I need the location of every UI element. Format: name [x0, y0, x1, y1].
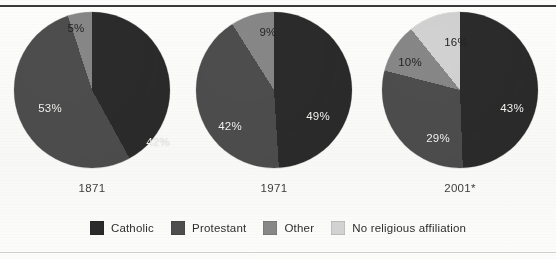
pie-wrap: 42%53%5%: [14, 12, 170, 168]
pie-2001-slice-label-other: 10%: [398, 56, 422, 68]
pie-2001-slice-label-catholic: 43%: [500, 102, 524, 114]
pie-2001-year-label: 2001*: [376, 182, 544, 194]
legend-swatch-other: [263, 221, 277, 235]
pie-chart-group: 42%53%5% 1871 49%42%9% 1971 43%29%10%16%…: [0, 12, 556, 207]
pie-wrap: 43%29%10%16%: [382, 12, 538, 168]
pie-1971-slice-label-protestant: 42%: [218, 120, 242, 132]
legend-item-protestant: Protestant: [171, 221, 246, 235]
pie-1871-year-label: 1871: [8, 182, 176, 194]
pie-1871-slice-label-catholic: 42%: [146, 136, 170, 148]
pie-1971-slice-label-other: 9%: [259, 26, 276, 38]
pie-1971-year-label: 1971: [190, 182, 358, 194]
pie-1971-slice-label-catholic: 49%: [306, 110, 330, 122]
pie-1871-slice-label-other: 5%: [67, 22, 84, 34]
chart-legend: CatholicProtestantOtherNo religious affi…: [0, 221, 556, 235]
pie-wrap: 49%42%9%: [196, 12, 352, 168]
top-divider-rule: [0, 5, 556, 7]
legend-label: Catholic: [111, 222, 154, 234]
pie-2001-slice-label-no-religious-affiliation: 16%: [444, 36, 468, 48]
legend-item-catholic: Catholic: [90, 221, 154, 235]
legend-label: No religious affiliation: [352, 222, 466, 234]
pie-chart-1871: 42%53%5% 1871: [8, 12, 176, 207]
pie-chart-2001: 43%29%10%16% 2001*: [376, 12, 544, 207]
legend-item-no-religious-affiliation: No religious affiliation: [331, 221, 466, 235]
pie-2001-slice-label-protestant: 29%: [426, 132, 450, 144]
legend-item-other: Other: [263, 221, 314, 235]
legend-label: Protestant: [192, 222, 246, 234]
pie-1871-slice-label-protestant: 53%: [38, 102, 62, 114]
bottom-divider-rule: [0, 252, 556, 253]
pie-chart-1971: 49%42%9% 1971: [190, 12, 358, 207]
legend-swatch-catholic: [90, 221, 104, 235]
legend-swatch-protestant: [171, 221, 185, 235]
legend-swatch-no-religious-affiliation: [331, 221, 345, 235]
legend-label: Other: [284, 222, 314, 234]
